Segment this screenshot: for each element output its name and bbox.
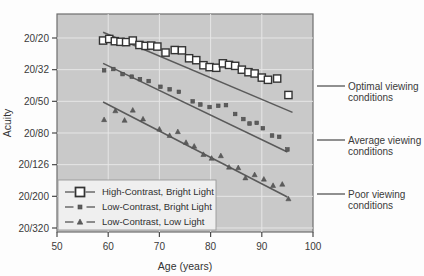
y-tick-label: 20/126 xyxy=(18,159,49,170)
marker-open-square xyxy=(285,91,292,98)
marker-open-square xyxy=(178,47,185,54)
marker-filled-square xyxy=(78,205,82,209)
marker-open-square xyxy=(264,76,271,83)
y-tick-label: 20/80 xyxy=(24,128,49,139)
annotation-label-line2: conditions xyxy=(348,92,393,103)
annotation-callouts: Optimal viewingconditionsAverage viewing… xyxy=(317,81,421,212)
marker-open-square xyxy=(193,57,200,64)
marker-filled-square xyxy=(270,134,274,138)
x-tick-label: 50 xyxy=(51,241,63,252)
acuity-vs-age-scatter-chart: 20/2020/3220/5020/8020/12620/20020/320 5… xyxy=(0,0,424,276)
x-axis-title: Age (years) xyxy=(158,260,212,272)
annotation-label-line1: Poor viewing xyxy=(348,189,405,200)
legend-item-label: Low-Contrast, Bright Light xyxy=(102,201,212,212)
annotation-label-line2: conditions xyxy=(348,146,393,157)
annotation-label-line2: conditions xyxy=(348,200,393,211)
x-tick-label: 70 xyxy=(154,241,166,252)
marker-open-square xyxy=(171,46,178,53)
marker-open-square xyxy=(154,43,161,50)
marker-open-square xyxy=(274,75,281,82)
marker-filled-square xyxy=(286,148,290,152)
marker-filled-square xyxy=(261,126,265,130)
marker-filled-square xyxy=(216,104,220,108)
y-tick-label: 20/50 xyxy=(24,96,49,107)
marker-filled-square xyxy=(255,121,259,125)
legend-item-label: Low-Contrast, Low Light xyxy=(102,216,205,227)
marker-filled-square xyxy=(130,75,134,79)
marker-filled-square xyxy=(121,72,125,76)
y-tick-label: 20/200 xyxy=(18,191,49,202)
marker-filled-square xyxy=(277,135,281,139)
marker-open-square xyxy=(162,49,169,56)
chart-legend: High-Contrast, Bright LightLow-Contrast,… xyxy=(58,180,216,230)
y-tick-label: 20/32 xyxy=(24,64,49,75)
x-tick-label: 60 xyxy=(103,241,115,252)
y-tick-label: 20/20 xyxy=(24,33,49,44)
marker-open-square xyxy=(76,188,85,197)
y-tick-label: 20/320 xyxy=(18,223,49,234)
annotation-label-line1: Average viewing xyxy=(348,135,421,146)
marker-filled-square xyxy=(168,88,172,92)
x-tick-label: 90 xyxy=(256,241,268,252)
marker-filled-square xyxy=(191,100,195,104)
marker-filled-square xyxy=(208,105,212,109)
marker-open-square xyxy=(251,70,258,77)
marker-filled-square xyxy=(112,67,116,71)
y-axis-title: Acuity xyxy=(1,108,13,137)
marker-filled-square xyxy=(102,69,106,73)
marker-filled-square xyxy=(224,103,228,107)
marker-open-square xyxy=(185,55,192,62)
legend-item-label: High-Contrast, Bright Light xyxy=(102,186,214,197)
x-axis-ticks: 5060708090100 xyxy=(51,232,321,252)
x-tick-label: 80 xyxy=(205,241,217,252)
marker-filled-square xyxy=(199,103,203,107)
marker-filled-square xyxy=(177,90,181,94)
chart-figure: 20/2020/3220/5020/8020/12620/20020/320 5… xyxy=(0,0,424,276)
marker-filled-square xyxy=(147,79,151,83)
marker-filled-square xyxy=(233,112,237,116)
marker-filled-square xyxy=(138,77,142,81)
marker-filled-square xyxy=(159,85,163,89)
marker-filled-square xyxy=(242,117,246,121)
marker-filled-square xyxy=(248,122,252,126)
y-axis-ticks: 20/2020/3220/5020/8020/12620/20020/320 xyxy=(18,33,57,234)
annotation-label-line1: Optimal viewing xyxy=(348,81,419,92)
x-tick-label: 100 xyxy=(305,241,322,252)
